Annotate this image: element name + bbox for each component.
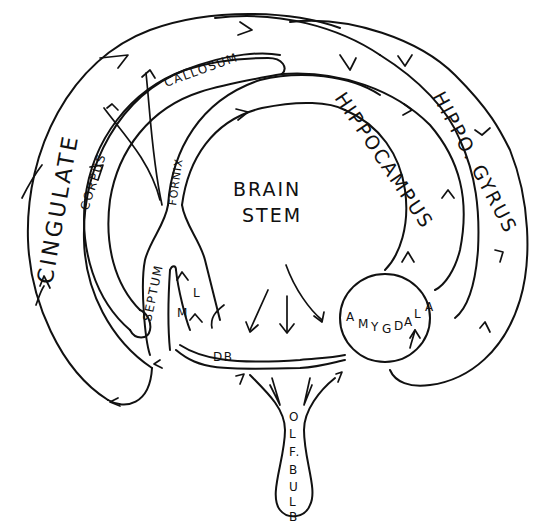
arrow-icon [190,314,202,322]
db-label: DB [213,350,233,364]
limbic-system-diagram: CINGULATE CORPUS CALLOSUM FORNIX HIPPOCA… [0,0,543,529]
svg-text:G: G [382,322,393,336]
svg-text:B: B [289,463,299,477]
svg-text:A: A [425,300,435,314]
hippo-gyrus-label: HIPPO. GYRUS [428,88,521,238]
arrow-icon [398,55,412,66]
brain-stem-arrows [212,265,324,333]
arrow-icon [442,190,454,198]
arrow-icon [475,128,490,135]
corpus-label: CORPUS [78,152,109,212]
arrow-icon [236,374,244,384]
arrow-icon [340,55,356,70]
svg-text:L: L [414,307,422,321]
olf-bulb-label: O L F. B U L B [289,410,301,524]
arrow-icon [154,360,162,368]
stem-label: STEM [242,204,302,226]
svg-text:O: O [289,410,300,424]
svg-text:L: L [289,427,297,441]
arrow-icon [177,272,188,280]
amygdala-label: A M Y G D A L A [346,300,435,336]
arrow-icon [110,398,120,406]
arrow-icon [402,252,414,262]
arrow-icon [403,104,412,115]
arrow-icon [495,250,503,262]
arrow-icon [336,372,342,382]
arrow-icon [410,330,420,338]
svg-text:B: B [289,510,299,524]
arrow-icon [100,55,128,68]
arrow-icon [142,70,155,78]
hippocampus-label: HIPPOCAMPUS [331,88,439,233]
svg-text:M: M [358,317,370,331]
svg-text:Y: Y [370,320,380,334]
arrow-icon [480,322,490,332]
db-band [176,345,345,369]
arrow-icon [107,104,118,110]
svg-text:F.: F. [289,445,301,459]
brain-label: BRAIN [233,178,301,200]
arrow-icon [238,22,252,35]
svg-text:A: A [404,315,414,329]
lateral-label: L [193,286,201,300]
svg-text:A: A [346,310,356,324]
svg-text:L: L [289,495,297,509]
medial-label: M [177,306,189,320]
svg-text:U: U [289,480,299,494]
